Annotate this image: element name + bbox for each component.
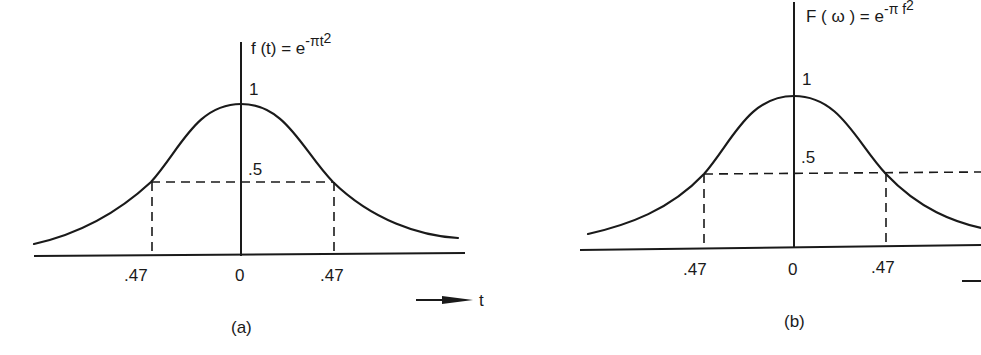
figure-canvas: f (t) = e-πt2 1 .5 .47 0 .47 t (a) F ( ω…: [0, 0, 981, 355]
gaussian-curve-a: [34, 104, 458, 244]
axis-arrow-icon: [416, 296, 473, 304]
axis-var-a: t: [479, 291, 484, 310]
gaussian-curve-b: [588, 96, 981, 234]
x-tick-left-a: .47: [124, 266, 148, 285]
x-tick-right-b: .47: [871, 258, 895, 277]
formula-a: f (t) = e-πt2: [251, 30, 332, 58]
x-tick-zero-b: 0: [788, 260, 797, 279]
formula-b: F ( ω ) = e-π f2: [806, 0, 914, 26]
x-tick-left-b: .47: [683, 260, 707, 279]
x-axis-a: [34, 253, 465, 256]
caption-b: (b): [784, 312, 805, 331]
y-tick-1-a: 1: [249, 80, 258, 99]
y-tick-half-a: .5: [248, 160, 262, 179]
panel-b: F ( ω ) = e-π f2 1 .5 .47 0 .47 (b): [580, 0, 981, 331]
y-tick-1-b: 1: [802, 70, 811, 89]
x-axis-b: [580, 245, 981, 250]
panel-a: f (t) = e-πt2 1 .5 .47 0 .47 t (a): [34, 30, 484, 337]
x-tick-right-a: .47: [320, 266, 344, 285]
half-max-line-b: [704, 172, 981, 174]
x-tick-zero-a: 0: [235, 266, 244, 285]
y-tick-half-b: .5: [801, 148, 815, 167]
caption-a: (a): [231, 318, 252, 337]
